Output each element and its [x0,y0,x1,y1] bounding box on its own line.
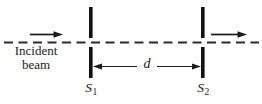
slit-s1-upper-bar [89,7,93,38]
slit-s2-lower-bar [201,47,205,78]
two-slit-diagram: Incident beam d S1 S2 [0,0,262,104]
transmitted-beam-arrow [211,31,247,38]
incident-beam-label: Incident beam [6,44,66,71]
slit-screen-s2 [201,7,205,78]
slit-s2-upper-bar [201,7,205,38]
incident-beam-label-line2: beam [6,58,66,72]
incident-beam-arrow [30,31,63,38]
slit-s2-label-base: S [197,80,204,95]
slit-s2-label: S2 [193,80,213,96]
slit-s2-label-sub: 2 [205,87,210,97]
distance-label: d [137,56,157,71]
slit-s1-label-sub: 1 [93,87,98,97]
slit-s1-lower-bar [89,47,93,78]
slit-s1-label-base: S [85,80,92,95]
incident-beam-label-line1: Incident [6,44,66,58]
slit-s1-label: S1 [81,80,101,96]
